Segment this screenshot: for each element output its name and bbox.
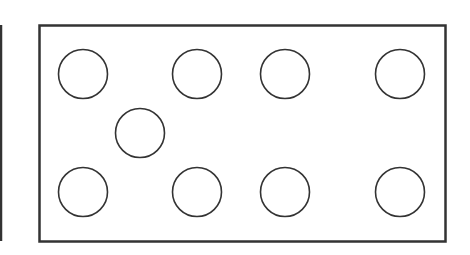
circle-5 <box>116 109 165 158</box>
circle-9 <box>376 168 425 217</box>
circle-1 <box>59 50 108 99</box>
circle-4 <box>376 50 425 99</box>
circle-group <box>59 50 425 217</box>
circle-7 <box>173 168 222 217</box>
circle-8 <box>261 168 310 217</box>
diagram-canvas <box>0 0 470 255</box>
circle-3 <box>261 50 310 99</box>
circle-2 <box>173 50 222 99</box>
circle-6 <box>59 168 108 217</box>
